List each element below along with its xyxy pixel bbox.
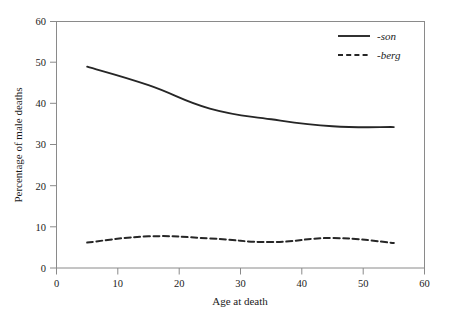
legend-label-son: -son bbox=[377, 30, 396, 42]
legend: -son -berg bbox=[338, 30, 401, 61]
y-tick-label: 0 bbox=[41, 263, 46, 274]
x-tick-label: 30 bbox=[235, 278, 246, 289]
chart-container: 0 10 20 30 40 50 60 0 10 20 30 40 50 60 bbox=[0, 0, 449, 314]
x-tick-label: 60 bbox=[419, 278, 430, 289]
y-tick-label: 40 bbox=[36, 98, 47, 109]
y-tick-label: 10 bbox=[36, 222, 47, 233]
legend-label-berg: -berg bbox=[377, 49, 401, 61]
x-tick-label: 10 bbox=[113, 278, 124, 289]
x-axis-tick-labels: 0 10 20 30 40 50 60 bbox=[54, 278, 430, 289]
x-tick-label: 0 bbox=[54, 278, 59, 289]
x-axis-ticks bbox=[57, 268, 425, 275]
x-axis-title: Age at death bbox=[212, 295, 268, 307]
y-tick-label: 50 bbox=[36, 57, 47, 68]
y-axis-title: Percentage of male deaths bbox=[12, 87, 24, 202]
x-tick-label: 40 bbox=[297, 278, 308, 289]
y-tick-label: 20 bbox=[36, 181, 47, 192]
line-chart: 0 10 20 30 40 50 60 0 10 20 30 40 50 60 bbox=[0, 0, 449, 314]
y-axis-ticks bbox=[50, 22, 57, 269]
plot-frame bbox=[57, 22, 425, 269]
y-tick-label: 60 bbox=[36, 16, 47, 27]
y-axis-tick-labels: 0 10 20 30 40 50 60 bbox=[36, 16, 47, 274]
y-tick-label: 30 bbox=[36, 139, 47, 150]
x-tick-label: 50 bbox=[358, 278, 369, 289]
x-tick-label: 20 bbox=[174, 278, 185, 289]
series-line-berg bbox=[87, 236, 394, 243]
series-line-son bbox=[87, 67, 394, 128]
